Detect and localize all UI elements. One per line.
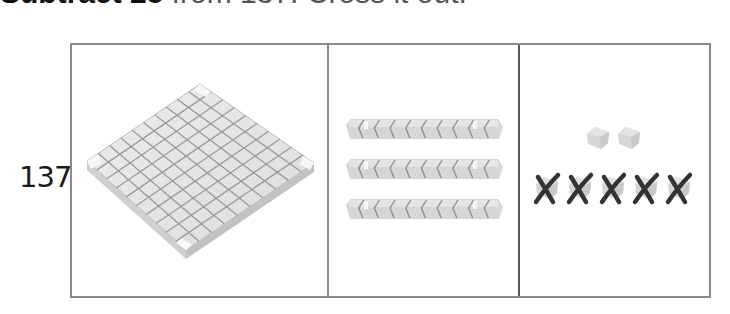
ten-rod	[346, 159, 503, 179]
ones-cubes-icon	[520, 45, 710, 300]
one-cube	[587, 127, 609, 149]
one-cube	[618, 127, 640, 149]
heading-bold-text: Subtract 25	[0, 0, 163, 9]
ones-cell	[520, 45, 709, 296]
heading-rest-text: from 137. Cross it out.	[163, 0, 466, 9]
tens-rods-icon	[329, 45, 520, 300]
ten-rod	[346, 119, 503, 139]
tens-cell	[329, 45, 520, 296]
ten-rod	[346, 199, 503, 219]
base-ten-blocks-frame	[70, 43, 711, 298]
problem-number: 137	[19, 160, 71, 194]
hundreds-cell	[72, 45, 329, 296]
instruction-heading: Subtract 25 from 137. Cross it out.	[0, 0, 467, 10]
hundreds-flat-icon	[72, 45, 329, 300]
